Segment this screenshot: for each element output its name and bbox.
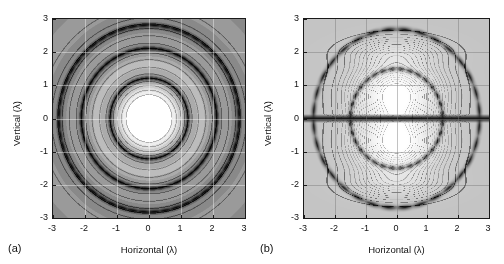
y-tick-label: 2 (281, 47, 299, 56)
y-tick (52, 152, 56, 153)
x-tick (149, 215, 150, 219)
x-tick-label: 0 (393, 224, 398, 233)
x-tick-label: -3 (299, 224, 307, 233)
x-tick (181, 215, 182, 219)
y-tick-label: -2 (281, 180, 299, 189)
x-tick-label: -3 (48, 224, 56, 233)
y-tick-label: 0 (30, 114, 48, 123)
x-tick (53, 215, 54, 219)
x-tick (366, 215, 367, 219)
y-tick (52, 19, 56, 20)
x-tick-label: 2 (454, 224, 459, 233)
x-tick (489, 215, 490, 219)
x-tick-label: 1 (423, 224, 428, 233)
x-tick (458, 215, 459, 219)
x-tick (335, 215, 336, 219)
figure-container: -3-2-101233210-1-2-3 Horizontal (λ) Vert… (0, 0, 504, 264)
panel-caption-b: (b) (260, 242, 273, 254)
y-tick-label: 2 (30, 47, 48, 56)
contour-image-a (53, 19, 245, 218)
y-tick-label: -2 (30, 180, 48, 189)
y-tick-label: 3 (281, 14, 299, 23)
x-tick (117, 215, 118, 219)
y-tick (52, 185, 56, 186)
y-tick-label: -1 (281, 147, 299, 156)
x-tick (304, 215, 305, 219)
y-tick (303, 52, 307, 53)
y-tick (303, 218, 307, 219)
x-tick (245, 215, 246, 219)
y-tick (52, 119, 56, 120)
x-tick (427, 215, 428, 219)
x-tick (85, 215, 86, 219)
y-tick (303, 119, 307, 120)
y-tick (52, 52, 56, 53)
x-tick-label: 1 (177, 224, 182, 233)
y-tick (303, 185, 307, 186)
panel-a: -3-2-101233210-1-2-3 Horizontal (λ) Vert… (0, 0, 252, 264)
y-axis-title-b: Vertical (λ) (262, 64, 273, 184)
x-tick-label: -1 (112, 224, 120, 233)
y-axis-title-a: Vertical (λ) (11, 64, 22, 184)
y-tick (52, 85, 56, 86)
y-tick-label: -3 (30, 213, 48, 222)
panel-b: -3-2-101233210-1-2-3 Horizontal (λ) Vert… (252, 0, 504, 264)
x-axis-title-b: Horizontal (λ) (303, 244, 490, 255)
x-axis-title-a: Horizontal (λ) (52, 244, 246, 255)
plot-area-b (303, 18, 490, 219)
x-tick-label: 3 (241, 224, 246, 233)
y-tick-label: -1 (30, 147, 48, 156)
x-tick (397, 215, 398, 219)
panel-caption-a: (a) (8, 242, 21, 254)
y-tick (303, 85, 307, 86)
y-tick (303, 19, 307, 20)
y-tick-label: 0 (281, 114, 299, 123)
y-tick (303, 152, 307, 153)
y-tick-label: 3 (30, 14, 48, 23)
x-tick-label: 2 (209, 224, 214, 233)
y-tick-label: 1 (281, 80, 299, 89)
x-tick-label: -2 (330, 224, 338, 233)
plot-area-a (52, 18, 246, 219)
x-tick-label: -1 (361, 224, 369, 233)
x-tick-label: -2 (80, 224, 88, 233)
x-tick-label: 0 (145, 224, 150, 233)
x-tick-label: 3 (485, 224, 490, 233)
y-tick-label: -3 (281, 213, 299, 222)
y-tick-label: 1 (30, 80, 48, 89)
x-tick (213, 215, 214, 219)
y-tick (52, 218, 56, 219)
contour-image-b (304, 19, 489, 218)
